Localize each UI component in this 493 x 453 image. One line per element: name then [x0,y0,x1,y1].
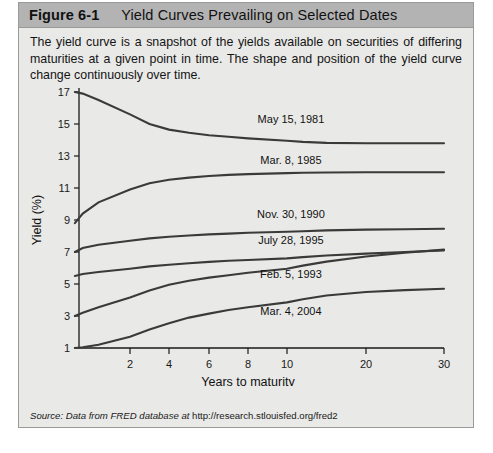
y-tick-label: 15 [58,118,70,130]
curve-label-4: July 28, 1995 [258,234,323,246]
y-tick-label: 5 [64,278,70,290]
y-tick-label: 7 [64,246,70,258]
y-tick-label: 3 [64,310,70,322]
figure-title: Yield Curves Prevailing on Selected Date… [121,7,397,23]
source-url[interactable]: http://research.stlouisfed.org/fred2 [192,410,338,421]
figure-panel: Figure 6-1 Yield Curves Prevailing on Se… [18,2,474,428]
x-tick-label: 6 [206,358,212,370]
figure-header-bar: Figure 6-1 Yield Curves Prevailing on Se… [19,3,473,28]
x-tick-label: 8 [245,358,251,370]
figure-number: Figure 6-1 [29,7,99,23]
x-tick-label: 10 [281,358,293,370]
curve-label-2: Mar. 8, 1985 [260,154,321,166]
y-tick-label: 1 [64,342,70,354]
curve-label-6: Mar. 4, 2004 [260,305,321,317]
figure-source: Source: Data from FRED database at http:… [19,408,473,427]
curve-label-5: Feb. 5, 1993 [260,268,322,280]
x-tick-label: 20 [360,358,372,370]
y-tick-label: 11 [59,182,70,194]
chart-area: 13579111315172468102030Years to maturity… [19,86,473,386]
source-prefix: Source: Data from FRED database at [30,410,192,421]
y-tick-label: 17 [58,86,70,98]
y-axis-title: Yield (%) [30,195,44,245]
yield-curve-chart: 13579111315172468102030Years to maturity… [19,86,473,386]
y-tick-label: 13 [58,150,70,162]
y-tick-label: 9 [64,214,70,226]
curve-label-3: Nov. 30, 1990 [257,208,325,220]
x-axis-title: Years to maturity [201,375,295,386]
figure-caption: The yield curve is a snapshot of the yie… [19,28,473,86]
x-tick-label: 30 [438,358,450,370]
curve-label-1: May 15, 1981 [258,113,325,125]
x-tick-label: 2 [127,358,133,370]
x-tick-label: 4 [166,358,172,370]
